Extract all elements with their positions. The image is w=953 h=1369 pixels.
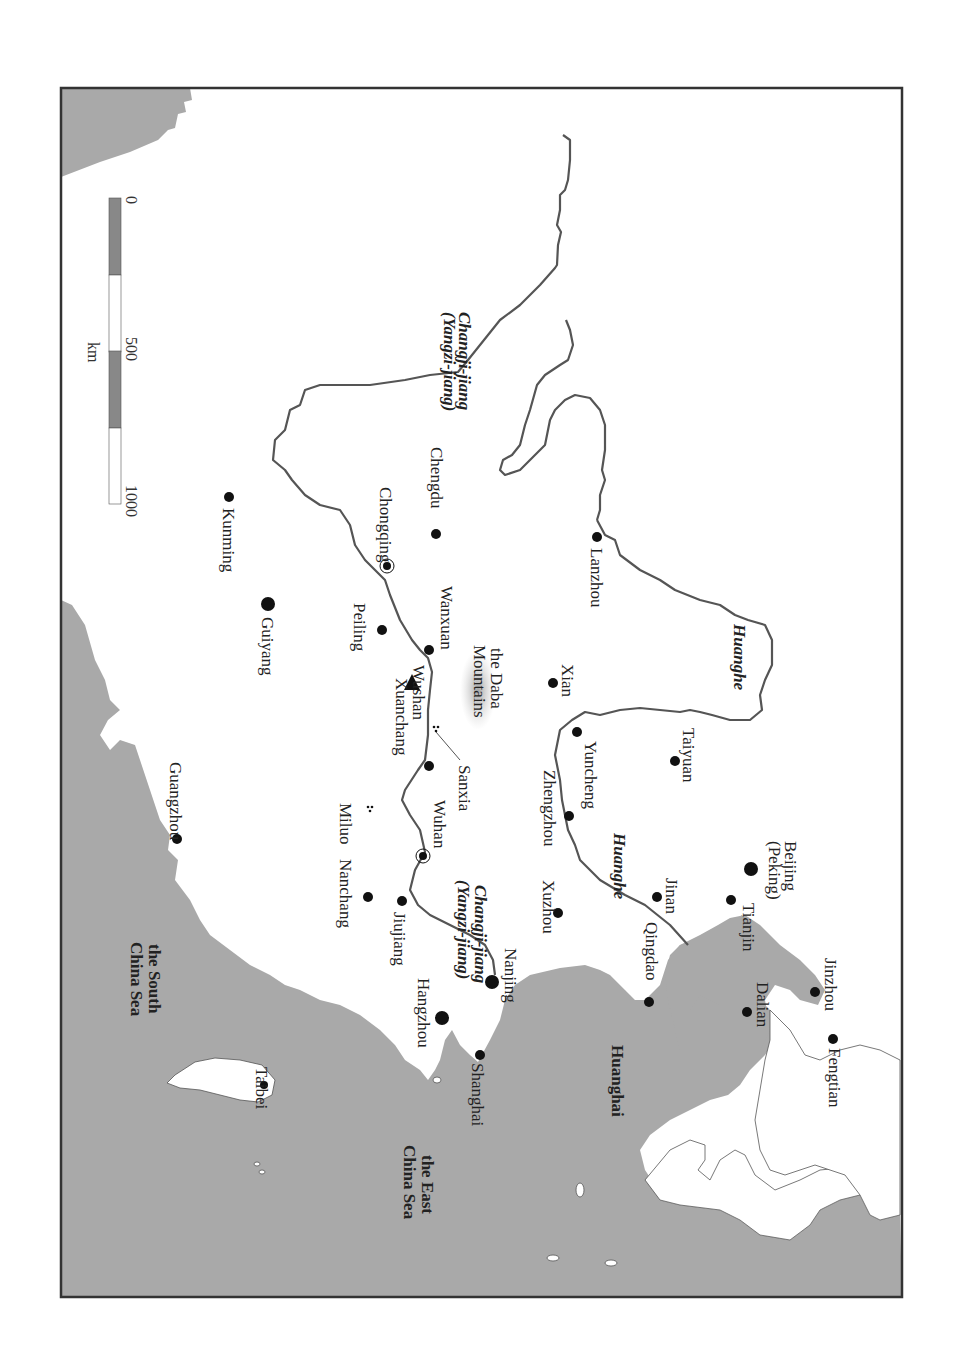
label-jinzhou: Jinzhou — [821, 958, 840, 1011]
label-huanghe-upper: Huanghe — [730, 623, 749, 691]
label-wuhan: Wuhan — [430, 800, 449, 849]
label-taiyuan: Taiyuan — [679, 728, 698, 783]
city-dot-tianjin[interactable] — [726, 895, 736, 905]
rivers — [273, 135, 772, 975]
label-yuncheng: Yuncheng — [581, 741, 600, 809]
label-nanjing: Nanjing — [501, 948, 520, 1003]
city-dot-beijing[interactable] — [744, 862, 758, 876]
label-zhengzhou: Zhengzhou — [540, 770, 559, 847]
city-dot-yuncheng[interactable] — [572, 727, 582, 737]
scale-unit: km — [85, 342, 102, 363]
city-dot-chongqing[interactable] — [383, 562, 391, 570]
city-dot-wuhan[interactable] — [419, 852, 427, 860]
label-chongqing: Chongqing — [376, 487, 395, 563]
label-huanghai: Huanghai — [608, 1045, 627, 1117]
label-miluo: Miluo — [336, 803, 355, 845]
label-jiujiang: Jiujiang — [390, 912, 409, 966]
label-taibei: Taibei — [252, 1067, 271, 1110]
label-sanxia: Sanxia — [455, 765, 474, 812]
scale-tick-500: 500 — [123, 337, 140, 361]
label-peking: (Peking) — [765, 841, 784, 900]
sea-northwest-corner — [61, 88, 192, 177]
scale-bar: 0 500 1000 km — [85, 196, 140, 517]
label-huanghe-lower: Huanghe — [610, 832, 629, 900]
label-jinan: Jinan — [662, 878, 681, 914]
river-tributary — [500, 320, 605, 520]
scale-tick-0: 0 — [123, 196, 140, 204]
scale-tick-1000: 1000 — [123, 485, 140, 517]
city-dot-dalian[interactable] — [742, 1007, 752, 1017]
label-kunming: Kunming — [219, 508, 238, 573]
city-dot-taiyuan[interactable] — [670, 756, 680, 766]
label-south-china-sea-line2: China Sea — [127, 942, 146, 1017]
label-wanxuan: Wanxuan — [437, 586, 456, 650]
city-dot-jinan[interactable] — [652, 892, 662, 902]
label-dalian: Dalian — [753, 982, 772, 1028]
city-dot-wanxuan[interactable] — [424, 645, 434, 655]
label-nanchang: Nanchang — [336, 859, 355, 928]
city-dot-chengdu[interactable] — [431, 529, 441, 539]
city-dot-lanzhou[interactable] — [592, 532, 602, 542]
label-east-china-sea-line1: the East — [418, 1155, 437, 1214]
label-hangzhou: Hangzhou — [414, 978, 433, 1048]
city-dot-fengtian[interactable] — [828, 1034, 838, 1044]
label-yangzi-upper: (Yangzi-jiang) — [440, 312, 459, 412]
china-map: 0 500 1000 km — [0, 0, 953, 1369]
label-chengdu: Chengdu — [427, 447, 446, 509]
label-guangzhou: Guangzhou — [166, 762, 185, 841]
city-dot-nanchang[interactable] — [363, 892, 373, 902]
label-tianjin: Tianjin — [739, 903, 758, 952]
label-south-china-sea-line1: the South — [145, 944, 164, 1014]
city-dot-hangzhou[interactable] — [435, 1011, 449, 1025]
city-dot-guiyang[interactable] — [261, 597, 275, 611]
label-xuanchang: Xuanchang — [392, 678, 411, 756]
city-dot-shanghai[interactable] — [475, 1050, 485, 1060]
label-shanghai: Shanghai — [468, 1063, 487, 1127]
label-daba-line2: Mountains — [470, 645, 489, 718]
label-peiling: Peiling — [350, 603, 369, 652]
city-dot-xian[interactable] — [548, 678, 558, 688]
label-yangzi-lower: (Yangzi-jiang) — [454, 880, 473, 980]
city-dot-kunming[interactable] — [224, 492, 234, 502]
ruins-icon-miluo — [367, 806, 374, 813]
label-east-china-sea-line2: China Sea — [400, 1145, 419, 1220]
label-lanzhou: Lanzhou — [587, 548, 606, 608]
label-qingdao: Qingdao — [642, 922, 661, 981]
label-xuzhou: Xuzhou — [539, 880, 558, 934]
label-xian: Xian — [558, 664, 577, 698]
city-dot-jinzhou[interactable] — [810, 987, 820, 997]
city-dot-xuanchang[interactable] — [424, 761, 434, 771]
label-fengtian: Fengtian — [825, 1048, 844, 1108]
label-guiyang: Guiyang — [258, 617, 277, 676]
city-dot-jiujiang[interactable] — [397, 896, 407, 906]
city-dot-qingdao[interactable] — [644, 997, 654, 1007]
city-dot-peiling[interactable] — [377, 625, 387, 635]
ruins-icon-sanxia — [433, 726, 440, 733]
city-dot-zhengzhou[interactable] — [564, 811, 574, 821]
